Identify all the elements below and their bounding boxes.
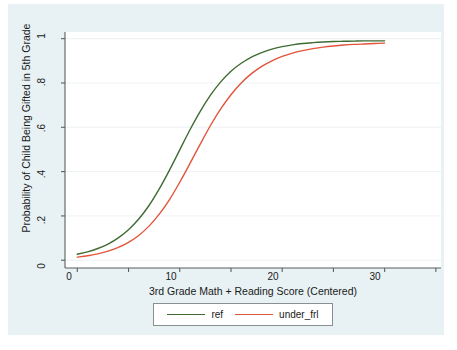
- y-axis-ticks: [61, 39, 65, 261]
- scanned-page: Probability of Child Being Gifted in 5th…: [0, 0, 457, 350]
- axis-overlay: [8, 4, 444, 335]
- chart-canvas: Probability of Child Being Gifted in 5th…: [8, 4, 444, 335]
- x-axis-ticks: [77, 268, 436, 272]
- legend-entry-under-frl[interactable]: under_frl: [235, 309, 318, 320]
- chart-legend[interactable]: ref under_frl: [153, 303, 333, 326]
- legend-swatch-ref: [167, 314, 205, 315]
- legend-entry-ref[interactable]: ref: [167, 309, 223, 320]
- legend-label-ref: ref: [211, 309, 223, 320]
- legend-swatch-under-frl: [235, 314, 273, 315]
- legend-label-under-frl: under_frl: [279, 309, 318, 320]
